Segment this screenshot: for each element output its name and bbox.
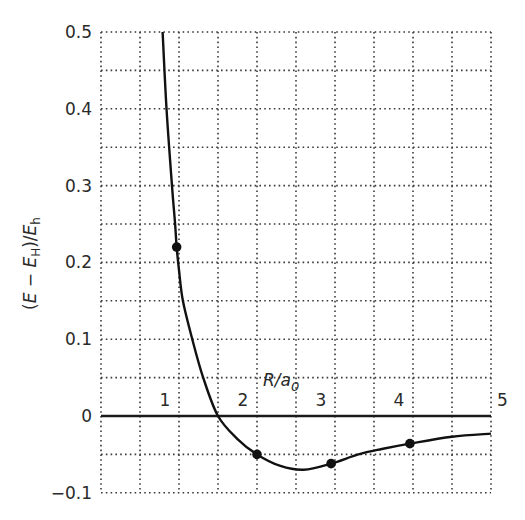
x-axis-title-main: R/a xyxy=(263,370,291,390)
data-point-marker xyxy=(172,242,182,252)
y-tick-labels: −0.100.10.20.30.40.5 xyxy=(51,22,92,503)
x-tick-label: 3 xyxy=(316,390,327,410)
data-point-marker xyxy=(405,439,415,449)
data-point-marker xyxy=(252,450,262,460)
y-tick-label: 0.1 xyxy=(65,329,92,349)
y-tick-label: 0.4 xyxy=(65,99,92,119)
data-point-marker xyxy=(326,459,336,469)
y-tick-label: −0.1 xyxy=(51,483,92,503)
x-tick-label: 1 xyxy=(160,390,171,410)
data-points xyxy=(172,242,415,468)
y-tick-label: 0.5 xyxy=(65,22,92,42)
x-tick-label: 2 xyxy=(238,390,249,410)
energy-curve-chart: −0.100.10.20.30.40.5 12345 R/a0 (E − EH)… xyxy=(0,0,525,520)
y-tick-label: 0.2 xyxy=(65,252,92,272)
x-axis-title: R/a0 xyxy=(263,370,299,394)
x-tick-label: 4 xyxy=(394,390,405,410)
x-tick-label: 5 xyxy=(497,390,508,410)
grid xyxy=(101,32,491,493)
x-axis-title-subscript: 0 xyxy=(291,379,299,394)
y-tick-label: 0.3 xyxy=(65,176,92,196)
y-axis-title: (E − EH)/Eh xyxy=(20,217,43,310)
y-tick-label: 0 xyxy=(81,406,92,426)
energy-curve-line xyxy=(163,32,491,470)
